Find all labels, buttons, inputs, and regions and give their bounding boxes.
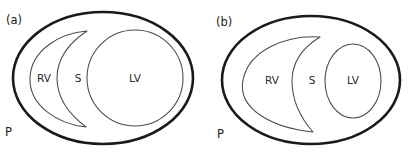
panel-a-septum-label: S xyxy=(75,72,82,84)
panel-b-rv-label: RV xyxy=(265,74,280,86)
panel-b-label: (b) xyxy=(216,15,232,29)
panel-a-lv-label: LV xyxy=(129,72,142,84)
panel-b-lv-label: LV xyxy=(347,74,360,86)
panel-b-septum-label: S xyxy=(309,74,316,86)
panel-b: (b) RV S LV P xyxy=(216,15,400,144)
panel-a-label: (a) xyxy=(6,13,22,27)
panel-b-pericardium-label: P xyxy=(217,127,224,141)
panel-a: (a) RV S LV P xyxy=(5,12,193,144)
figure-canvas: (a) RV S LV P (b) RV S L xyxy=(0,0,413,156)
panel-a-pericardium-label: P xyxy=(5,125,12,139)
panel-a-rv-label: RV xyxy=(37,72,52,84)
cardiac-cross-section-figure: (a) RV S LV P (b) RV S L xyxy=(0,0,413,156)
